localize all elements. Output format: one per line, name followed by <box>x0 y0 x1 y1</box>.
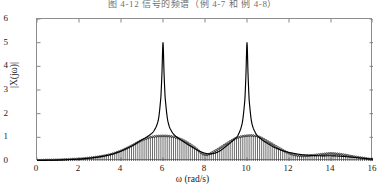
x-tick-label-16: 16 <box>360 164 384 173</box>
x-tick-label-12: 12 <box>276 164 300 173</box>
x-tick-label-6: 6 <box>150 164 174 173</box>
y-tick-label-2: 2 <box>0 109 8 118</box>
x-tick-label-8: 8 <box>192 164 216 173</box>
plot-area <box>36 18 372 160</box>
y-tick-label-3: 3 <box>0 85 8 94</box>
spectrum-svg <box>37 19 373 161</box>
y-tick-label-6: 6 <box>0 14 8 23</box>
y-tick-label-5: 5 <box>0 38 8 47</box>
y-axis-title: |X(jω)| <box>9 35 19 115</box>
y-tick-label-1: 1 <box>0 132 8 141</box>
figure-caption-text: 图 4-12 信号的频谱（例 4-7 和 例 4-8） <box>108 0 277 9</box>
x-tick-label-10: 10 <box>234 164 258 173</box>
figure-spectrum-plot: 图 4-12 信号的频谱（例 4-7 和 例 4-8） 6 5 4 3 2 1 … <box>0 0 385 193</box>
x-axis-title: ω (rad/s) <box>0 174 385 184</box>
x-tick-label-14: 14 <box>318 164 342 173</box>
x-tick-label-0: 0 <box>24 164 48 173</box>
continuous-spectrum-curve <box>37 43 373 161</box>
x-tick-label-2: 2 <box>66 164 90 173</box>
x-tick-label-4: 4 <box>108 164 132 173</box>
figure-caption: 图 4-12 信号的频谱（例 4-7 和 例 4-8） <box>0 0 385 9</box>
y-tick-label-4: 4 <box>0 61 8 70</box>
y-tick-label-0: 0 <box>0 156 8 165</box>
axis-ticks <box>37 19 373 161</box>
